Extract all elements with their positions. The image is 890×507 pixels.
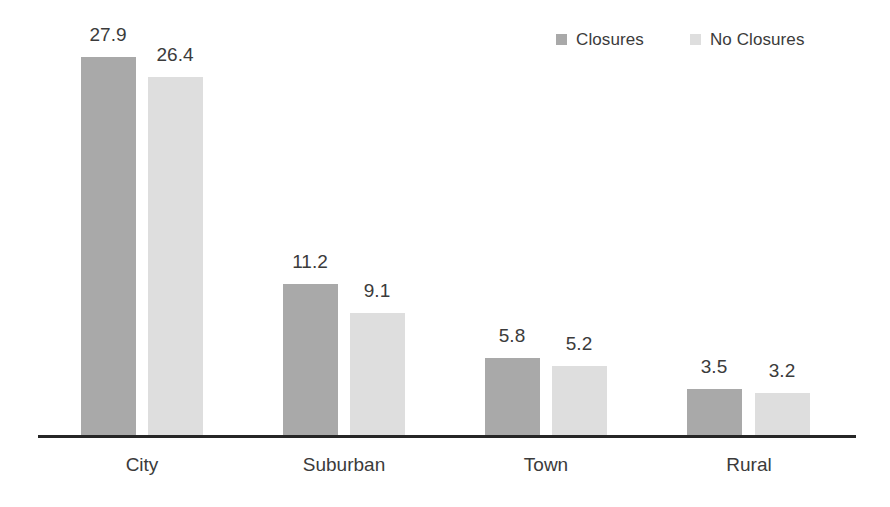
bar-rural-no-closures[interactable] — [755, 393, 810, 437]
x-axis-label-town: Town — [456, 455, 636, 474]
x-axis-label-city: City — [52, 455, 232, 474]
bar-value-suburban-closures: 11.2 — [275, 252, 345, 271]
x-axis-line — [38, 435, 856, 438]
bar-value-town-closures: 5.8 — [477, 326, 547, 345]
plot-area: 27.9 26.4 11.2 9.1 5.8 5.2 3.5 3.2 — [0, 0, 890, 437]
bar-city-no-closures[interactable] — [148, 77, 203, 437]
x-axis-label-suburban: Suburban — [254, 455, 434, 474]
bar-value-city-no-closures: 26.4 — [140, 45, 210, 64]
bar-suburban-closures[interactable] — [283, 284, 338, 437]
bar-value-suburban-no-closures: 9.1 — [342, 281, 412, 300]
bar-city-closures[interactable] — [81, 57, 136, 437]
bar-rural-closures[interactable] — [687, 389, 742, 437]
bar-value-city-closures: 27.9 — [73, 25, 143, 44]
bar-value-rural-closures: 3.5 — [679, 357, 749, 376]
x-axis-label-rural: Rural — [659, 455, 839, 474]
bar-value-town-no-closures: 5.2 — [544, 334, 614, 353]
bar-value-rural-no-closures: 3.2 — [747, 361, 817, 380]
bar-town-no-closures[interactable] — [552, 366, 607, 437]
bar-chart: Closures No Closures 27.9 26.4 11.2 9.1 … — [0, 0, 890, 507]
bar-town-closures[interactable] — [485, 358, 540, 437]
bar-suburban-no-closures[interactable] — [350, 313, 405, 437]
